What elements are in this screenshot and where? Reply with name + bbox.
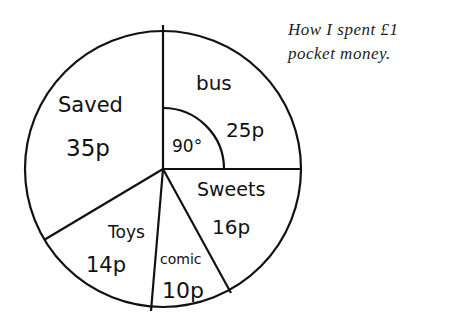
slice-label-sweets: Sweets (197, 178, 265, 200)
chart-title-line-1: How I spent £1 (288, 18, 398, 42)
slice-label-bus: bus (196, 71, 232, 95)
pie-chart: bus 25p 90° Sweets 16p comic 10p Toys 14… (0, 0, 472, 327)
slice-value-saved: 35p (66, 135, 110, 161)
slice-value-comic: 10p (162, 278, 204, 303)
angle-label: 90° (172, 136, 202, 156)
slice-divider-toys-saved (44, 169, 163, 240)
chart-title-line-2: pocket money. (288, 42, 398, 66)
slice-label-toys: Toys (107, 222, 145, 242)
slice-value-bus: 25p (226, 118, 264, 142)
chart-title: How I spent £1 pocket money. (288, 18, 398, 66)
slice-value-toys: 14p (86, 253, 126, 277)
slice-value-sweets: 16p (212, 215, 250, 239)
slice-label-saved: Saved (58, 93, 123, 117)
slice-label-comic: comic (160, 251, 202, 267)
